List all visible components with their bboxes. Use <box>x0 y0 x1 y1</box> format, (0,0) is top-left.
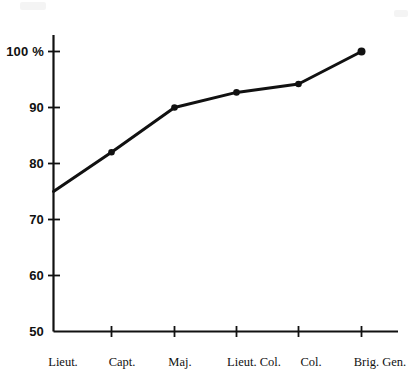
data-point-lieut-col <box>233 89 240 96</box>
data-point-brig-gen <box>358 48 366 56</box>
y-tick-label-50: 50 <box>0 324 44 339</box>
y-tick-label-100: 100 % <box>0 44 44 59</box>
y-tick-label-70: 70 <box>0 212 44 227</box>
y-tick-label-80: 80 <box>0 156 44 171</box>
data-point-maj <box>171 104 178 111</box>
x-tick-label-lieut-col: Lieut. Col. <box>227 355 281 370</box>
x-tick-label-maj: Maj. <box>168 355 191 370</box>
line-chart-plot <box>0 0 416 386</box>
y-tick-label-90: 90 <box>0 100 44 115</box>
y-tick-label-60: 60 <box>0 268 44 283</box>
x-tick-label-capt: Capt. <box>109 355 136 370</box>
data-point-markers <box>108 48 365 156</box>
chart-container: 100 % 90 80 70 60 50 Lieut. Capt. Maj. L… <box>0 0 416 386</box>
x-tick-label-col: Col. <box>300 355 321 370</box>
data-point-capt <box>108 149 115 156</box>
data-series-line <box>54 52 362 192</box>
data-point-col <box>295 81 302 88</box>
x-tick-label-brig-gen: Brig. Gen. <box>354 355 406 370</box>
x-tick-label-lieut: Lieut. <box>48 355 78 370</box>
